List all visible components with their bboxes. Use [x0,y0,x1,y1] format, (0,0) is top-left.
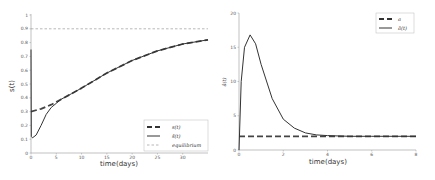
x-tick-label: 10 [79,155,85,160]
x-tick-label: 5 [55,155,58,160]
y-tick-label: 0.5 [21,82,28,87]
legend-ahat-label: â(t) [398,25,407,31]
x-tick-label: 8 [415,152,418,157]
right-x-ticks: 02468 [238,150,418,157]
legend-s-label: s(t) [172,124,181,130]
left-chart: 00.10.20.30.40.50.60.70.80.91 0510152025… [8,13,208,169]
legend-shat-label: ŝ(t) [172,133,181,139]
x-tick-label: 30 [180,155,186,160]
y-tick-label: 0.6 [21,68,28,73]
left-x-ticks: 051015202530 [30,153,186,160]
left-x-label: time(days) [100,160,138,168]
x-tick-label: 6 [370,152,373,157]
series-s(t) [31,40,208,112]
y-tick-label: 5 [233,113,236,118]
right-y-label: â(t) [221,78,227,87]
left-y-ticks: 00.10.20.30.40.50.60.70.80.91 [21,13,31,156]
right-x-label: time(days) [309,158,347,166]
y-tick-label: 1 [25,13,28,18]
y-tick-label: 0.7 [21,54,28,59]
y-tick-label: 0.4 [21,95,28,100]
y-tick-label: 0.2 [21,123,28,128]
y-tick-label: 0.3 [21,109,28,114]
right-legend-box [376,13,414,33]
y-tick-label: 0 [25,151,28,156]
figure: 00.10.20.30.40.50.60.70.80.91 0510152025… [0,0,435,180]
legend-equilibrium-label: equilibrium [172,142,202,149]
y-tick-label: 15 [230,45,236,50]
x-tick-label: 2 [282,152,285,157]
y-tick-label: 0.9 [21,26,28,31]
y-tick-label: 0 [233,148,236,153]
legend-a-label: a [398,16,401,22]
right-series [239,35,416,150]
right-legend: a â(t) [376,13,414,33]
y-tick-label: 20 [230,11,236,16]
x-tick-label: 25 [155,155,161,160]
x-tick-label: 0 [30,155,33,160]
y-tick-label: 0.8 [21,40,28,45]
y-tick-label: 0.1 [21,137,28,142]
left-legend: s(t) ŝ(t) equilibrium [144,120,208,151]
right-chart: 05101520 02468 â(t) time(days) a â(t) [221,11,418,167]
y-tick-label: 10 [230,79,236,84]
series-â(t) [239,35,416,150]
x-tick-label: 4 [326,152,329,157]
left-y-label: s(t) [8,80,16,92]
x-tick-label: 0 [238,152,241,157]
right-y-ticks: 05101520 [230,11,239,153]
